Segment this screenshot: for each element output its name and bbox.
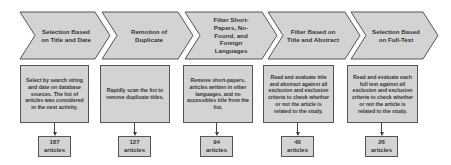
step-3-count: 94 articles	[200, 136, 233, 157]
count-unit: articles	[287, 147, 308, 154]
step-4-description: Read and evaluate title and abstract aga…	[263, 65, 334, 123]
step-3-description: Remove short-papers, articles written in…	[183, 65, 253, 123]
count-unit: articles	[371, 147, 392, 154]
step-5-title: Selection Based on Full-Text	[372, 12, 420, 59]
count-value: 26	[378, 139, 385, 146]
step-2-description: Rapidly scan the list to remove duplicat…	[100, 65, 170, 123]
step-5-description: Read and evaluate each full text against…	[347, 65, 418, 123]
count-value: 127	[129, 139, 139, 146]
step-1-title: Selection Based on Title and Date	[40, 12, 92, 59]
count-value: 40	[294, 139, 301, 146]
step-5-count: 26 articles	[365, 136, 398, 157]
count-unit: articles	[206, 147, 227, 154]
step-4-count: 40 articles	[281, 136, 314, 157]
step-2-title: Remotion of Duplicate	[120, 12, 178, 59]
count-value: 187	[49, 139, 59, 146]
count-value: 94	[213, 139, 220, 146]
count-unit: articles	[44, 147, 65, 154]
step-3-title: Filter Short-Papers, No-Found, and Forei…	[205, 12, 257, 59]
step-4-title: Filter Based on Title and Abstract	[285, 12, 341, 59]
step-1-count: 187 articles	[38, 136, 71, 157]
count-unit: articles	[124, 147, 145, 154]
step-2-count: 127 articles	[118, 136, 151, 157]
step-1-description: Select by search string and date on data…	[20, 65, 89, 123]
